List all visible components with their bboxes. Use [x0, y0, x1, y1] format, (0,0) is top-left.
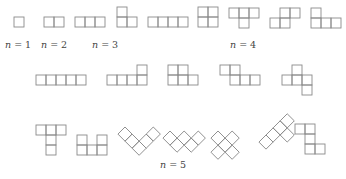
cell: [292, 75, 302, 85]
cell: [168, 65, 178, 75]
cell: [270, 18, 280, 28]
cell: [282, 75, 292, 85]
polyomino-diagram: n = 1n = 2n = 3n = 4n = 5: [0, 0, 346, 179]
cell: [280, 18, 290, 28]
domino: [44, 17, 64, 27]
cell: [127, 17, 137, 27]
cell: [168, 17, 178, 27]
cell: [188, 75, 198, 85]
cell: [198, 17, 208, 27]
tetromino-L: [311, 8, 341, 28]
cell: [87, 145, 97, 155]
cell: [198, 7, 208, 17]
cell: [117, 75, 127, 85]
pentomino-V: [118, 113, 160, 155]
pentomino-U: [77, 135, 107, 155]
tetromino-T: [229, 8, 259, 28]
cell: [302, 75, 312, 85]
cell: [292, 65, 302, 75]
cell: [311, 18, 321, 28]
cell: [127, 75, 137, 85]
n-label: n = 4: [230, 39, 256, 50]
cell: [208, 7, 218, 17]
pentomino-P: [168, 65, 198, 85]
cell: [146, 127, 160, 141]
cell: [225, 131, 239, 145]
cell: [170, 138, 184, 152]
cell: [97, 135, 107, 145]
cell: [132, 141, 146, 155]
pentomino-F: [282, 65, 312, 95]
cell: [321, 18, 331, 28]
group-n-4: [148, 7, 341, 28]
cell: [305, 124, 315, 134]
cell: [46, 145, 56, 155]
cell: [75, 17, 85, 27]
cell: [273, 121, 287, 135]
cell: [46, 135, 56, 145]
cell: [280, 8, 290, 18]
cell: [211, 145, 225, 159]
pentomino-I: [36, 75, 86, 85]
cell: [177, 131, 191, 145]
cell: [184, 138, 198, 152]
cell: [14, 17, 24, 27]
cell: [46, 125, 56, 135]
pentomino-Y: [259, 114, 301, 156]
n-label: n = 5: [160, 159, 186, 170]
cell: [85, 17, 95, 27]
cell: [36, 75, 46, 85]
cell: [95, 17, 105, 27]
cell: [163, 131, 177, 145]
cell: [250, 75, 260, 85]
tetromino-S: [270, 8, 300, 28]
cell: [117, 17, 127, 27]
cell: [311, 8, 321, 18]
pentomino-Z: [295, 124, 325, 154]
group-n-2: [44, 17, 64, 27]
cell: [148, 17, 158, 27]
group-n-3: [75, 7, 137, 27]
cell: [280, 114, 294, 128]
n-label: n = 3: [92, 39, 118, 50]
pentomino-X: [204, 124, 246, 166]
cell: [77, 135, 87, 145]
cell: [137, 75, 147, 85]
cell: [191, 131, 205, 145]
cell: [305, 144, 315, 154]
tromino-L: [117, 7, 137, 27]
cell: [125, 134, 139, 148]
cell: [107, 75, 117, 85]
cell: [229, 8, 239, 18]
monomino: [14, 17, 24, 27]
cell: [178, 17, 188, 27]
cell: [46, 75, 56, 85]
cell: [56, 125, 66, 135]
pentomino-T: [36, 125, 66, 155]
cell: [239, 8, 249, 18]
cell: [178, 65, 188, 75]
cell: [225, 145, 239, 159]
tromino-I: [75, 17, 105, 27]
cell: [139, 134, 153, 148]
cell: [76, 75, 86, 85]
cell: [230, 75, 240, 85]
cell: [36, 125, 46, 135]
polyomino-shapes: [14, 7, 341, 166]
pentomino-W: [163, 117, 205, 159]
cell: [240, 75, 250, 85]
cell: [66, 75, 76, 85]
cell: [54, 17, 64, 27]
cell: [211, 131, 225, 145]
cell: [158, 17, 168, 27]
cell: [239, 18, 249, 28]
cell: [290, 8, 300, 18]
cell: [302, 85, 312, 95]
cell: [117, 7, 127, 17]
cell: [295, 124, 305, 134]
cell: [137, 65, 147, 75]
pentomino-N: [220, 65, 260, 85]
pentomino-L: [107, 65, 147, 85]
cell: [118, 127, 132, 141]
cell: [259, 135, 273, 149]
